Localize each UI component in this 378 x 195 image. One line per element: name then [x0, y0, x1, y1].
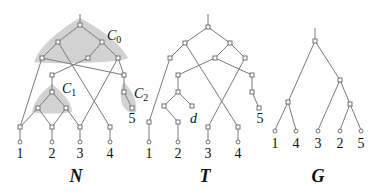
- leaf-label: 5: [257, 111, 264, 126]
- leaf-label: 3: [315, 136, 322, 151]
- component-label-c0: C0: [107, 28, 121, 45]
- leaf-label: 5: [358, 136, 365, 151]
- panel-title-t: T: [200, 166, 212, 186]
- leaf-label: 4: [235, 146, 242, 161]
- leaf-label: 2: [337, 136, 344, 151]
- leaf-label: 5: [129, 111, 136, 126]
- network-N: C0 C1 C2 1 2 3 4 5 N: [17, 14, 149, 186]
- leaf-label: 3: [77, 146, 84, 161]
- diagram-canvas: C0 C1 C2 1 2 3 4 5 N: [0, 0, 378, 195]
- panel-title-n: N: [69, 166, 84, 186]
- leaf-label: 1: [17, 146, 24, 161]
- tree-T: d 1 2 3 4 5 T: [146, 14, 264, 186]
- leaf-label: 2: [175, 146, 182, 161]
- leaf-label: 4: [107, 146, 114, 161]
- tree-T-nodes: [147, 25, 261, 144]
- component-label-c2: C2: [134, 86, 148, 103]
- leaf-label: 4: [293, 136, 300, 151]
- tree-G-nodes: [273, 39, 363, 133]
- panel-title-g: G: [312, 166, 325, 186]
- leaf-label: 1: [272, 136, 279, 151]
- tree-G: 1 4 3 2 5 G: [272, 28, 365, 186]
- component-label-c1: C1: [62, 81, 76, 98]
- leaf-label: 1: [146, 146, 153, 161]
- node-label-d: d: [190, 111, 198, 126]
- leaf-label: 2: [49, 146, 56, 161]
- leaf-label: 3: [205, 146, 212, 161]
